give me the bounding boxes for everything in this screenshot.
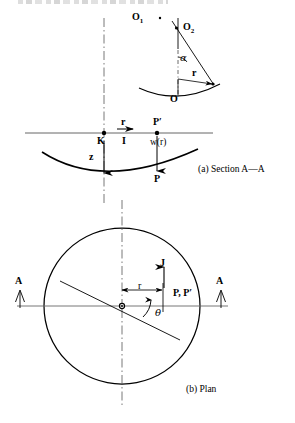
inset-label-o1: O1 <box>132 12 143 25</box>
section-label-p: P <box>154 174 160 184</box>
section-label-z-axis: z <box>89 152 93 162</box>
inset-label-radius: r <box>192 68 196 78</box>
section-label-k: K <box>97 136 105 146</box>
plan-label-theta: θ <box>155 308 161 318</box>
plan-label-radius: r <box>138 281 141 291</box>
diagram-canvas <box>0 0 295 423</box>
section-point-pprime-marker <box>155 131 159 135</box>
figure-shell-deflection-diagram: O1 O2 α r O K r I P′ w(r) z P (a) Sectio… <box>0 0 295 423</box>
inset-label-o2-subscript: 2 <box>191 27 195 35</box>
section-label-unit-vector-i: I <box>122 136 126 146</box>
section-shell-profile <box>42 149 198 171</box>
plan-label-point-pair: P, P′ <box>173 288 192 298</box>
inset-label-alpha: α <box>180 53 187 63</box>
inset-radius-dimension <box>178 79 212 84</box>
inset-point-o1-marker <box>159 17 161 19</box>
section-view-group <box>25 18 213 205</box>
inset-label-o2: O2 <box>183 22 194 35</box>
plan-label-section-a-left: A <box>15 276 22 286</box>
section-label-radius: r <box>121 117 125 127</box>
plan-label-vector-j: J <box>160 258 165 268</box>
plan-label-section-a-right: A <box>216 276 223 286</box>
section-label-deflection: w(r) <box>150 138 166 148</box>
caption-section-aa: (a) Section A—A <box>198 165 265 175</box>
inset-shell-arc <box>139 84 220 96</box>
inset-point-o2-marker <box>175 26 178 29</box>
caption-plan: (b) Plan <box>186 385 216 395</box>
inset-label-o1-subscript: 1 <box>140 17 144 25</box>
plan-theta-arc <box>143 300 151 317</box>
plan-view-group <box>16 200 229 405</box>
plan-center-dot <box>121 305 123 307</box>
section-label-p-prime: P′ <box>153 117 162 127</box>
inset-label-origin-o: O <box>170 94 178 104</box>
